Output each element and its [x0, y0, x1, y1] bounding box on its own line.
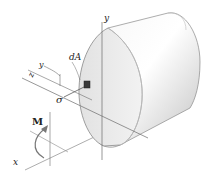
y-distance-indicator: y: [38, 60, 60, 86]
moment-M: M: [30, 112, 68, 166]
moment-label: M: [32, 116, 43, 127]
z-axis-label: z: [26, 71, 37, 80]
dA-label: dA: [69, 52, 82, 62]
y-local-label: y: [38, 60, 44, 69]
beam-bending-diagram: y z y dA σ M x: [0, 0, 221, 175]
x-axis-label: x: [13, 157, 18, 167]
y-axis-label: y: [103, 13, 110, 23]
sigma-label: σ: [56, 94, 64, 105]
